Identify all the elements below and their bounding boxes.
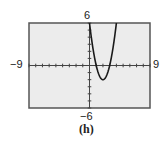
xmin-label: −9 [10, 59, 23, 70]
ymax-label: 6 [84, 10, 90, 21]
figure-caption: (h) [79, 123, 94, 135]
xmax-label: 9 [153, 59, 159, 70]
ymin-label: −6 [80, 111, 93, 122]
